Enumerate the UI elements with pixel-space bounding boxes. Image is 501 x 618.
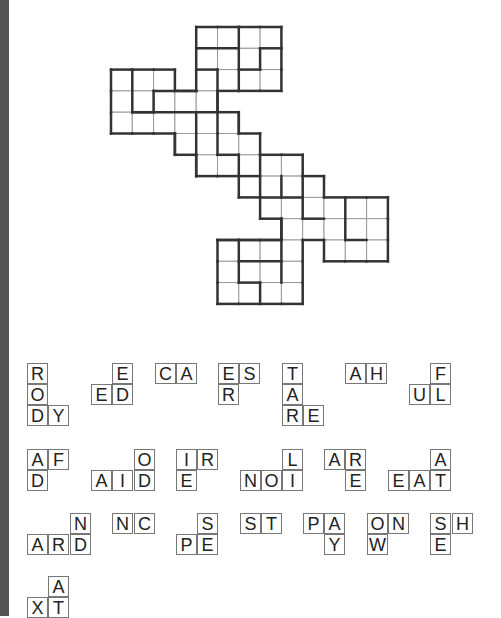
letter-tile[interactable]: E xyxy=(388,470,409,491)
letter-tile[interactable]: N xyxy=(388,513,409,534)
letter-tile[interactable]: E xyxy=(303,405,324,426)
grid-cell[interactable] xyxy=(303,176,324,197)
letter-tile[interactable]: W xyxy=(367,534,388,555)
grid-cell[interactable] xyxy=(132,70,153,91)
grid-cell[interactable] xyxy=(281,261,302,282)
letter-tile[interactable]: C xyxy=(134,513,155,534)
grid-cell[interactable] xyxy=(281,240,302,261)
grid-cell[interactable] xyxy=(239,240,260,261)
grid-cell[interactable] xyxy=(239,283,260,304)
grid-cell[interactable] xyxy=(281,219,302,240)
grid-cell[interactable] xyxy=(196,112,217,133)
letter-tile[interactable]: S xyxy=(197,513,218,534)
letter-tile[interactable]: A xyxy=(430,449,451,470)
letter-tile[interactable]: F xyxy=(48,449,69,470)
grid-cell[interactable] xyxy=(260,27,281,48)
grid-cell[interactable] xyxy=(154,70,175,91)
grid-cell[interactable] xyxy=(281,197,302,218)
letter-tile[interactable]: H xyxy=(366,363,387,384)
letter-tile[interactable]: A xyxy=(27,534,48,555)
letter-tile[interactable]: T xyxy=(430,470,451,491)
letter-tile[interactable]: E xyxy=(345,470,366,491)
letter-tile[interactable]: O xyxy=(27,384,48,405)
grid-cell[interactable] xyxy=(196,27,217,48)
grid-cell[interactable] xyxy=(218,27,239,48)
grid-cell[interactable] xyxy=(218,48,239,69)
letter-tile[interactable]: T xyxy=(48,597,69,618)
letter-tile[interactable]: D xyxy=(27,405,48,426)
letter-tile[interactable]: D xyxy=(27,470,48,491)
grid-cell[interactable] xyxy=(218,70,239,91)
letter-tile[interactable]: R xyxy=(27,363,48,384)
letter-tile[interactable]: Y xyxy=(324,534,345,555)
grid-cell[interactable] xyxy=(196,48,217,69)
grid-cell[interactable] xyxy=(239,27,260,48)
letter-tile[interactable]: E xyxy=(197,534,218,555)
grid-cell[interactable] xyxy=(260,261,281,282)
grid-cell[interactable] xyxy=(303,197,324,218)
letter-tile[interactable]: R xyxy=(197,449,218,470)
grid-cell[interactable] xyxy=(239,48,260,69)
grid-cell[interactable] xyxy=(324,197,345,218)
grid-cell[interactable] xyxy=(260,283,281,304)
letter-tile[interactable]: A xyxy=(345,363,366,384)
grid-cell[interactable] xyxy=(281,283,302,304)
grid-cell[interactable] xyxy=(218,155,239,176)
letter-tile[interactable]: R xyxy=(282,405,303,426)
letter-tile[interactable]: A xyxy=(282,384,303,405)
letter-tile[interactable]: N xyxy=(240,470,261,491)
letter-tile[interactable]: N xyxy=(112,513,133,534)
letter-tile[interactable]: C xyxy=(155,363,176,384)
grid-cell[interactable] xyxy=(281,176,302,197)
grid-cell[interactable] xyxy=(345,219,366,240)
grid-cell[interactable] xyxy=(260,155,281,176)
grid-cell[interactable] xyxy=(260,70,281,91)
letter-tile[interactable]: R xyxy=(218,384,239,405)
letter-tile[interactable]: S xyxy=(239,363,260,384)
letter-tile[interactable]: U xyxy=(409,384,430,405)
grid-cell[interactable] xyxy=(260,176,281,197)
grid-cell[interactable] xyxy=(175,112,196,133)
letter-tile[interactable]: A xyxy=(27,449,48,470)
grid-cell[interactable] xyxy=(175,134,196,155)
grid-cell[interactable] xyxy=(196,155,217,176)
grid-cell[interactable] xyxy=(218,283,239,304)
letter-tile[interactable]: A xyxy=(48,576,69,597)
letter-tile[interactable]: R xyxy=(48,534,69,555)
letter-tile[interactable]: E xyxy=(218,363,239,384)
letter-tile[interactable]: I xyxy=(112,470,133,491)
grid-cell[interactable] xyxy=(345,197,366,218)
grid-cell[interactable] xyxy=(132,91,153,112)
letter-tile[interactable]: H xyxy=(452,513,473,534)
grid-cell[interactable] xyxy=(218,112,239,133)
grid-cell[interactable] xyxy=(367,197,388,218)
grid-cell[interactable] xyxy=(367,240,388,261)
grid-cell[interactable] xyxy=(239,261,260,282)
letter-tile[interactable]: A xyxy=(409,470,430,491)
grid-cell[interactable] xyxy=(218,261,239,282)
grid-cell[interactable] xyxy=(196,70,217,91)
grid-cell[interactable] xyxy=(324,219,345,240)
letter-tile[interactable]: A xyxy=(324,513,345,534)
grid-cell[interactable] xyxy=(281,155,302,176)
letter-tile[interactable]: D xyxy=(70,534,91,555)
letter-tile[interactable]: X xyxy=(27,597,48,618)
grid-cell[interactable] xyxy=(239,155,260,176)
letter-tile[interactable]: S xyxy=(430,513,451,534)
grid-cell[interactable] xyxy=(239,70,260,91)
letter-tile[interactable]: E xyxy=(176,470,197,491)
letter-tile[interactable]: Y xyxy=(48,405,69,426)
grid-cell[interactable] xyxy=(196,134,217,155)
grid-cell[interactable] xyxy=(218,240,239,261)
letter-tile[interactable]: E xyxy=(430,534,451,555)
letter-tile[interactable]: O xyxy=(261,470,282,491)
letter-tile[interactable]: O xyxy=(134,449,155,470)
letter-tile[interactable]: R xyxy=(345,449,366,470)
letter-tile[interactable]: T xyxy=(282,363,303,384)
grid-cell[interactable] xyxy=(154,112,175,133)
letter-tile[interactable]: A xyxy=(91,470,112,491)
letter-tile[interactable]: I xyxy=(176,449,197,470)
letter-tile[interactable]: D xyxy=(112,384,133,405)
letter-tile[interactable]: A xyxy=(324,449,345,470)
letter-tile[interactable]: T xyxy=(261,513,282,534)
